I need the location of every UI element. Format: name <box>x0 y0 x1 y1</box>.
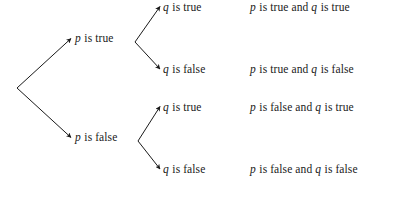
node-p-is-true-text: is true <box>81 32 113 44</box>
outcome-false-false: p is false and q is false <box>250 163 358 176</box>
node-q-is-false-lower: q is false <box>163 163 205 176</box>
outcome-true-false: p is true and q is false <box>250 63 354 76</box>
node-q-is-true-lower: q is true <box>163 101 201 114</box>
outcome-true-false-mid: is true and <box>256 63 311 75</box>
outcome-false-true-mid: is false and <box>256 101 315 113</box>
node-q-is-true-upper-text: is true <box>169 1 201 13</box>
node-p-is-false: p is false <box>75 131 117 144</box>
outcome-false-false-mid: is false and <box>256 163 315 175</box>
node-q-is-false-lower-text: is false <box>169 163 205 175</box>
outcome-true-true-mid: is true and <box>256 1 311 13</box>
branch-p-false-to-q-false <box>138 141 160 169</box>
outcome-false-true-end: is true <box>322 101 354 113</box>
outcome-false-true: p is false and q is true <box>250 101 354 114</box>
branch-p-false-to-q-true <box>138 107 160 142</box>
outcome-true-true: p is true and q is true <box>250 1 350 14</box>
branch-root-to-p-true <box>17 39 71 89</box>
branch-p-true-to-q-true <box>135 7 160 43</box>
node-p-is-true: p is true <box>75 32 113 45</box>
node-q-is-false-upper: q is false <box>163 63 205 76</box>
outcome-true-false-end: is false <box>318 63 354 75</box>
node-q-is-false-upper-text: is false <box>169 63 205 75</box>
outcome-true-true-end: is true <box>318 1 350 13</box>
tree-diagram-canvas: p is true p is false q is true q is fals… <box>0 0 397 197</box>
outcome-false-false-end: is false <box>322 163 358 175</box>
branch-p-true-to-q-false <box>135 42 160 69</box>
node-q-is-true-lower-text: is true <box>169 101 201 113</box>
node-p-is-false-text: is false <box>81 131 117 143</box>
node-q-is-true-upper: q is true <box>163 1 201 14</box>
branch-root-to-p-false <box>17 88 71 138</box>
